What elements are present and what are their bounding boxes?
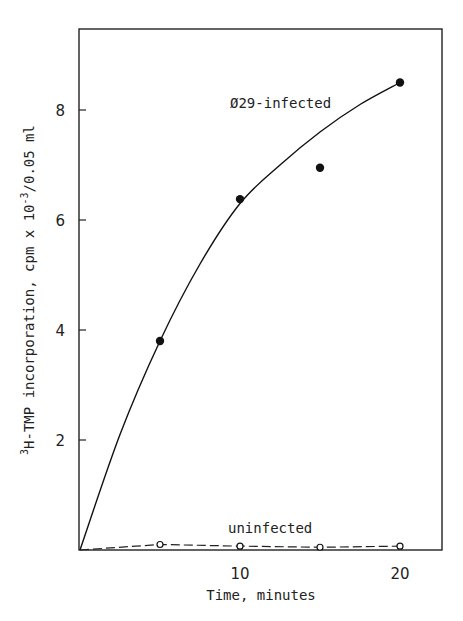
x-axis-title: Time, minutes [206, 587, 316, 603]
infected-data-point [316, 164, 324, 172]
infected-fit-curve [80, 83, 400, 551]
infected-data-point [236, 195, 244, 203]
uninfected-data-point [397, 543, 403, 549]
uninfected-series-label: uninfected [228, 520, 312, 536]
uninfected-data-point [157, 542, 163, 548]
x-tick-label: 20 [390, 565, 409, 583]
y-tick-label: 2 [55, 432, 65, 450]
infected-data-point [396, 78, 404, 86]
x-tick-label: 10 [230, 565, 249, 583]
uninfected-data-point [237, 543, 243, 549]
y-tick-label: 4 [55, 322, 65, 340]
y-tick-label: 6 [55, 212, 65, 230]
infected-data-point [156, 337, 164, 345]
infected-series-label: Ø29-infected [230, 95, 331, 111]
uninfected-data-point [317, 544, 323, 550]
y-tick-label: 8 [55, 102, 65, 120]
y-axis-title: 3H-TMP incorporation, cpm x 10-3/0.05 ml [19, 125, 37, 455]
chart: 24681020Time, minutes3H-TMP incorporatio… [0, 0, 463, 621]
